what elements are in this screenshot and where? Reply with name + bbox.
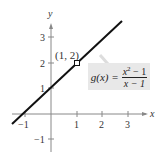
num-rest: − 1	[131, 66, 147, 77]
x-axis-arrow-icon	[142, 112, 148, 116]
function-prefix: g(x) =	[91, 71, 119, 83]
fraction-denominator: x − 1	[124, 78, 145, 89]
y-tick-1: 1	[40, 83, 45, 94]
x-tick-3: 3	[125, 119, 130, 130]
y-tick-3: 3	[40, 32, 45, 43]
x-tick-neg1: −1	[18, 119, 29, 130]
function-label-box: g(x) = x2 − 1 x − 1	[88, 63, 150, 90]
hole-marker	[75, 61, 80, 66]
x-axis-label: x	[149, 108, 155, 119]
y-tick-neg1: −1	[34, 134, 45, 145]
x-tick-1: 1	[74, 119, 79, 130]
y-axis-arrow-icon	[49, 23, 53, 29]
function-fraction: x2 − 1 x − 1	[122, 64, 148, 89]
x-tick-2: 2	[99, 119, 104, 130]
y-tick-2: 2	[40, 58, 45, 69]
fraction-numerator: x2 − 1	[122, 64, 148, 78]
graph-figure: −1 1 2 3 3 2 1 −1 x y (1, 2) g(x) = x2 −…	[0, 0, 161, 159]
y-axis-label: y	[47, 8, 53, 19]
point-label: (1, 2)	[55, 49, 79, 62]
